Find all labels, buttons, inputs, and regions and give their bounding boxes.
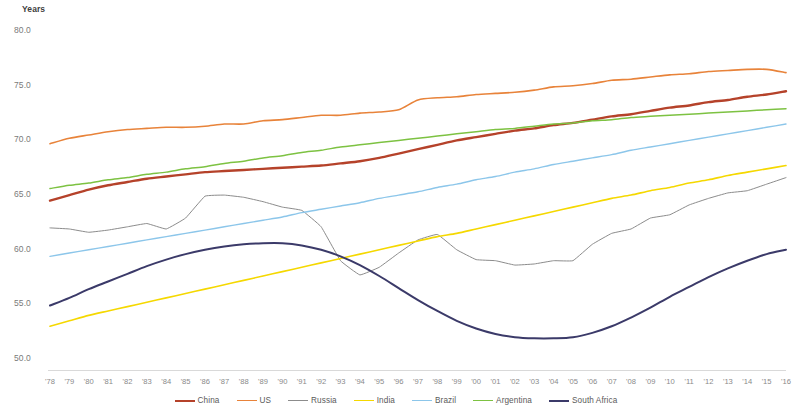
legend-color-swatch bbox=[412, 400, 432, 401]
x-axis-tick: '12 bbox=[704, 377, 714, 386]
legend-label: Argentina bbox=[496, 396, 532, 405]
legend-color-swatch bbox=[288, 400, 308, 401]
life-expectancy-line-chart: Years 80.075.070.065.060.055.050.0 '78'7… bbox=[0, 0, 792, 408]
legend-item-china[interactable]: China bbox=[175, 396, 220, 405]
x-axis-tick: '80 bbox=[84, 377, 94, 386]
x-axis-tick: '14 bbox=[742, 377, 752, 386]
series-line-south-africa bbox=[50, 243, 786, 338]
legend-label: US bbox=[260, 396, 272, 405]
x-axis-tick: '07 bbox=[607, 377, 617, 386]
x-axis-tick: '88 bbox=[239, 377, 249, 386]
legend-color-swatch bbox=[549, 400, 569, 402]
x-axis-line bbox=[48, 370, 786, 371]
legend-item-argentina[interactable]: Argentina bbox=[473, 396, 532, 405]
series-line-brazil bbox=[50, 124, 786, 256]
x-axis-tick: '03 bbox=[529, 377, 539, 386]
x-axis-tick: '09 bbox=[645, 377, 655, 386]
x-axis-tick: '11 bbox=[684, 377, 693, 386]
x-axis-tick: '13 bbox=[723, 377, 733, 386]
x-axis-tick: '93 bbox=[336, 377, 346, 386]
legend-item-brazil[interactable]: Brazil bbox=[412, 396, 456, 405]
series-line-india bbox=[50, 166, 786, 327]
legend-item-south-africa[interactable]: South Africa bbox=[549, 396, 617, 405]
legend-label: China bbox=[198, 396, 220, 405]
x-axis-tick: '01 bbox=[491, 377, 501, 386]
x-axis-tick: '83 bbox=[142, 377, 152, 386]
legend-label: Russia bbox=[311, 396, 337, 405]
x-axis-tick: '08 bbox=[626, 377, 636, 386]
chart-legend: ChinaUSRussiaIndiaBrazilArgentinaSouth A… bbox=[0, 396, 792, 405]
series-line-china bbox=[50, 91, 786, 200]
legend-label: India bbox=[377, 396, 395, 405]
x-axis-tick: '05 bbox=[568, 377, 578, 386]
x-axis-tick: '78 bbox=[45, 377, 55, 386]
x-axis-tick: '89 bbox=[258, 377, 268, 386]
x-axis-tick: '95 bbox=[374, 377, 384, 386]
x-axis-tick: '84 bbox=[161, 377, 171, 386]
legend-item-russia[interactable]: Russia bbox=[288, 396, 337, 405]
x-axis-tick: '97 bbox=[413, 377, 423, 386]
plot-area bbox=[0, 0, 792, 408]
legend-item-india[interactable]: India bbox=[354, 396, 395, 405]
x-axis-tick: '87 bbox=[219, 377, 229, 386]
x-axis-tick: '15 bbox=[762, 377, 772, 386]
legend-color-swatch bbox=[354, 400, 374, 401]
x-axis-tick: '06 bbox=[587, 377, 597, 386]
legend-color-swatch bbox=[473, 400, 493, 401]
x-axis-tick: '82 bbox=[123, 377, 133, 386]
x-axis-tick: '16 bbox=[781, 377, 791, 386]
x-axis-tick: '00 bbox=[471, 377, 481, 386]
x-axis-tick: '96 bbox=[394, 377, 404, 386]
x-axis-tick: '99 bbox=[452, 377, 462, 386]
x-axis-tick: '81 bbox=[103, 377, 113, 386]
legend-item-us[interactable]: US bbox=[237, 396, 272, 405]
legend-label: South Africa bbox=[572, 396, 617, 405]
x-axis-tick: '79 bbox=[64, 377, 74, 386]
x-axis-tick: '85 bbox=[181, 377, 191, 386]
x-axis-tick: '92 bbox=[316, 377, 326, 386]
x-axis-tick: '02 bbox=[510, 377, 520, 386]
x-axis-tick: '90 bbox=[277, 377, 287, 386]
x-axis-tick: '91 bbox=[297, 377, 307, 386]
x-axis-tick: '94 bbox=[355, 377, 365, 386]
x-axis-tick: '98 bbox=[432, 377, 442, 386]
legend-color-swatch bbox=[175, 400, 195, 402]
x-axis-tick: '10 bbox=[665, 377, 675, 386]
legend-color-swatch bbox=[237, 400, 257, 401]
x-axis-tick: '04 bbox=[549, 377, 559, 386]
x-axis-tick: '86 bbox=[200, 377, 210, 386]
legend-label: Brazil bbox=[435, 396, 456, 405]
